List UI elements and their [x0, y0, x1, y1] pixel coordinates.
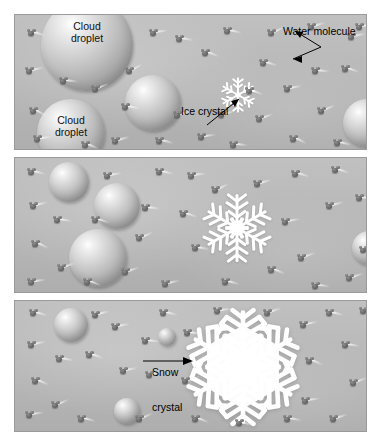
cloud-droplet-shrinking-1	[49, 162, 89, 202]
water-molecule	[229, 141, 238, 149]
water-molecule	[175, 35, 184, 43]
water-molecule	[223, 27, 232, 35]
cloud-droplet-shrinking-2	[94, 183, 140, 229]
snow-crystal-medium	[201, 192, 273, 264]
water-molecule	[141, 337, 150, 345]
water-molecule	[55, 355, 64, 363]
bergeron-process-diagram: Cloud droplet Cloud droplet	[0, 0, 378, 445]
water-molecule	[135, 234, 144, 242]
water-molecule	[341, 65, 350, 73]
water-molecule	[155, 168, 164, 176]
ice-crystal-label: Ice crystal	[181, 106, 228, 118]
water-molecule	[201, 49, 210, 57]
water-molecule	[103, 172, 112, 180]
snow-crystal-large	[185, 309, 301, 425]
water-molecule	[31, 240, 40, 248]
cloud-droplet-medium	[125, 75, 181, 131]
cloud-droplet-large-bottom	[37, 99, 105, 149]
water-molecule	[301, 397, 310, 405]
water-molecule	[355, 194, 364, 202]
water-molecule	[311, 67, 320, 75]
water-molecule	[27, 278, 36, 286]
water-molecule	[235, 419, 244, 427]
panel-growing-stage	[14, 157, 367, 293]
water-molecule	[345, 274, 354, 282]
water-molecule	[289, 135, 298, 143]
water-molecule	[91, 311, 100, 319]
cloud-droplet-small-3	[114, 398, 140, 424]
water-molecule	[263, 309, 272, 317]
water-molecule	[27, 29, 36, 37]
water-molecule	[359, 307, 366, 315]
water-molecule	[111, 137, 120, 145]
water-molecule	[329, 415, 338, 423]
water-molecule	[119, 367, 128, 375]
water-molecule	[325, 309, 334, 317]
water-molecule	[29, 107, 38, 115]
water-molecule	[333, 139, 342, 147]
water-molecule	[31, 377, 40, 385]
cloud-droplet-large-top	[41, 15, 133, 91]
water-molecule	[255, 115, 264, 123]
water-molecule	[27, 341, 36, 349]
water-molecule	[349, 379, 358, 387]
water-molecule	[183, 329, 192, 337]
water-molecule	[29, 202, 38, 210]
water-molecule	[149, 29, 158, 37]
water-molecule-label: Water molecule	[283, 26, 356, 38]
panel-mature-stage	[14, 300, 367, 432]
water-molecule	[25, 411, 34, 419]
water-molecule	[325, 202, 334, 210]
water-molecule	[161, 280, 170, 288]
water-molecule	[355, 23, 364, 31]
water-molecule	[317, 107, 326, 115]
water-molecule	[213, 307, 222, 315]
water-molecule	[283, 415, 292, 423]
water-molecule	[27, 168, 36, 176]
water-molecule	[253, 180, 262, 188]
water-molecule	[297, 254, 306, 262]
water-molecule	[111, 323, 120, 331]
water-molecule	[53, 216, 62, 224]
cloud-droplet-edge-right	[343, 99, 366, 147]
water-molecule	[291, 170, 300, 178]
panel-3-scene	[15, 301, 366, 431]
water-molecule	[211, 186, 220, 194]
snow-crystal-label-line2: crystal	[152, 402, 182, 414]
cloud-droplet-edge-right	[352, 231, 366, 265]
water-molecule	[29, 309, 38, 317]
water-molecule	[267, 29, 276, 37]
water-molecule	[191, 244, 200, 252]
water-molecule	[179, 210, 188, 218]
cloud-droplet-small-1	[54, 308, 88, 342]
water-molecule	[267, 266, 276, 274]
cloud-droplet-shrinking-3	[69, 229, 127, 287]
water-molecule	[187, 172, 196, 180]
water-molecule	[221, 278, 230, 286]
water-molecule	[141, 204, 150, 212]
water-molecule	[281, 218, 290, 226]
water-molecule	[259, 59, 268, 67]
water-molecule	[85, 351, 94, 359]
water-molecule	[159, 309, 168, 317]
water-molecule	[181, 377, 190, 385]
water-molecule	[305, 357, 314, 365]
water-molecule	[283, 85, 292, 93]
water-molecule	[155, 137, 164, 145]
water-molecule	[311, 282, 320, 290]
water-molecule	[51, 401, 60, 409]
water-molecule	[331, 166, 340, 174]
water-molecule	[341, 341, 350, 349]
water-molecule	[25, 67, 34, 75]
water-molecule	[77, 415, 86, 423]
panel-2-scene	[15, 158, 366, 292]
water-molecule	[245, 87, 254, 95]
snow-crystal-label-line1: Snow	[152, 367, 182, 379]
water-molecule	[191, 415, 200, 423]
water-molecule	[197, 133, 206, 141]
water-molecule	[57, 264, 66, 272]
water-molecule	[299, 321, 308, 329]
snow-crystal-label: Snow crystal	[152, 344, 182, 436]
